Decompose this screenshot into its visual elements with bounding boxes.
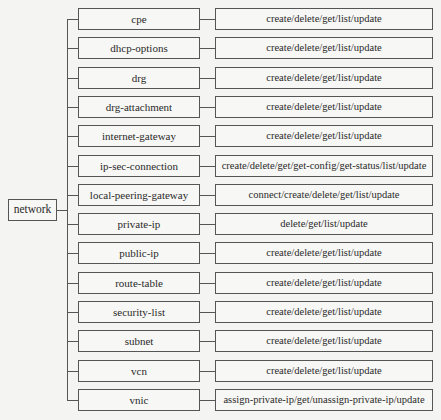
branch-connector [67, 341, 78, 342]
resource-row-drg: drg create/delete/get/list/update [0, 67, 441, 89]
resource-row-cpe: cpe create/delete/get/list/update [0, 8, 441, 30]
resource-node: route-table [78, 272, 200, 294]
resource-name: security-list [113, 307, 165, 318]
operations-label: create/delete/get/list/update [266, 14, 381, 25]
operations-label: create/delete/get/list/update [266, 131, 381, 142]
operations-connector [200, 400, 215, 401]
resource-row-local-peering-gateway: local-peering-gateway connect/create/del… [0, 184, 441, 206]
operations-connector [200, 48, 215, 49]
operations-connector [200, 107, 215, 108]
branch-connector [67, 107, 78, 108]
resource-name: vcn [131, 366, 147, 377]
resource-name: subnet [125, 336, 154, 347]
operations-connector [200, 136, 215, 137]
operations-label: create/delete/get/list/update [266, 336, 381, 347]
operations-node: create/delete/get/list/update [215, 360, 433, 382]
operations-node: create/delete/get/list/update [215, 272, 433, 294]
branch-connector [67, 166, 78, 167]
operations-connector [200, 195, 215, 196]
branch-connector [67, 371, 78, 372]
operations-connector [200, 78, 215, 79]
operations-label: create/delete/get/list/update [266, 102, 381, 113]
operations-label: create/delete/get/list/update [266, 366, 381, 377]
resource-rows: cpe create/delete/get/list/update dhcp-o… [0, 0, 441, 420]
branch-connector [67, 19, 78, 20]
resource-name: ip-sec-connection [100, 161, 178, 172]
resource-row-public-ip: public-ip create/delete/get/list/update [0, 242, 441, 264]
resource-row-subnet: subnet create/delete/get/list/update [0, 330, 441, 352]
resource-name: route-table [115, 278, 163, 289]
operations-connector [200, 253, 215, 254]
resource-row-ip-sec-connection: ip-sec-connection create/delete/get/get-… [0, 155, 441, 177]
resource-name: cpe [131, 14, 146, 25]
operations-node: create/delete/get/get-config/get-status/… [215, 155, 433, 177]
resource-node: cpe [78, 8, 200, 30]
operations-node: delete/get/list/update [215, 213, 433, 235]
resource-row-drg-attachment: drg-attachment create/delete/get/list/up… [0, 96, 441, 118]
operations-label: create/delete/get/get-config/get-status/… [222, 161, 427, 172]
resource-row-route-table: route-table create/delete/get/list/updat… [0, 272, 441, 294]
operations-connector [200, 166, 215, 167]
operations-connector [200, 312, 215, 313]
resource-name: vnic [130, 395, 149, 406]
operations-label: assign-private-ip/get/unassign-private-i… [223, 395, 424, 406]
resource-node: public-ip [78, 242, 200, 264]
resource-name: internet-gateway [102, 131, 176, 142]
operations-node: create/delete/get/list/update [215, 242, 433, 264]
operations-node: create/delete/get/list/update [215, 37, 433, 59]
operations-node: assign-private-ip/get/unassign-private-i… [215, 389, 433, 411]
operations-connector [200, 371, 215, 372]
resource-row-private-ip: private-ip delete/get/list/update [0, 213, 441, 235]
resource-name: public-ip [119, 248, 159, 259]
branch-connector [67, 195, 78, 196]
resource-node: local-peering-gateway [78, 184, 200, 206]
branch-connector [67, 224, 78, 225]
operations-node: connect/create/delete/get/list/update [215, 184, 433, 206]
resource-name: dhcp-options [110, 43, 167, 54]
operations-connector [200, 283, 215, 284]
operations-node: create/delete/get/list/update [215, 67, 433, 89]
resource-node: ip-sec-connection [78, 155, 200, 177]
operations-connector [200, 341, 215, 342]
resource-node: subnet [78, 330, 200, 352]
resource-row-dhcp-options: dhcp-options create/delete/get/list/upda… [0, 37, 441, 59]
operations-node: create/delete/get/list/update [215, 125, 433, 147]
resource-node: vnic [78, 389, 200, 411]
operations-connector [200, 19, 215, 20]
operations-label: create/delete/get/list/update [266, 43, 381, 54]
resource-node: drg-attachment [78, 96, 200, 118]
branch-connector [67, 283, 78, 284]
resource-row-vcn: vcn create/delete/get/list/update [0, 360, 441, 382]
operations-label: create/delete/get/list/update [266, 73, 381, 84]
operations-node: create/delete/get/list/update [215, 301, 433, 323]
operations-node: create/delete/get/list/update [215, 96, 433, 118]
operations-connector [200, 224, 215, 225]
resource-row-internet-gateway: internet-gateway create/delete/get/list/… [0, 125, 441, 147]
resource-node: dhcp-options [78, 37, 200, 59]
resource-name: local-peering-gateway [90, 190, 188, 201]
resource-row-security-list: security-list create/delete/get/list/upd… [0, 301, 441, 323]
branch-connector [67, 312, 78, 313]
operations-label: create/delete/get/list/update [266, 278, 381, 289]
operations-node: create/delete/get/list/update [215, 330, 433, 352]
branch-connector [67, 400, 78, 401]
resource-node: security-list [78, 301, 200, 323]
resource-name: drg-attachment [106, 102, 172, 113]
resource-name: private-ip [118, 219, 161, 230]
operations-label: create/delete/get/list/update [266, 248, 381, 259]
operations-label: delete/get/list/update [280, 219, 367, 230]
operations-label: connect/create/delete/get/list/update [248, 190, 399, 201]
branch-connector [67, 253, 78, 254]
resource-node: vcn [78, 360, 200, 382]
resource-node: drg [78, 67, 200, 89]
operations-node: create/delete/get/list/update [215, 8, 433, 30]
operations-label: create/delete/get/list/update [266, 307, 381, 318]
resource-name: drg [132, 73, 146, 84]
branch-connector [67, 78, 78, 79]
resource-row-vnic: vnic assign-private-ip/get/unassign-priv… [0, 389, 441, 411]
branch-connector [67, 48, 78, 49]
resource-node: internet-gateway [78, 125, 200, 147]
resource-node: private-ip [78, 213, 200, 235]
branch-connector [67, 136, 78, 137]
